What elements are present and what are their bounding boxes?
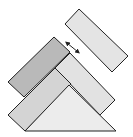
shapes-diagram	[0, 0, 133, 137]
